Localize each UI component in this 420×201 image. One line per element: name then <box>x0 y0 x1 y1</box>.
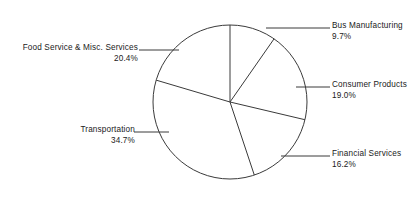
slice-label-percent: 9.7% <box>332 32 403 43</box>
slice-label-transportation: Transportation 34.7% <box>80 125 135 146</box>
slice-label-percent: 19.0% <box>332 91 407 102</box>
slice-label-name: Bus Manufacturing <box>332 21 403 32</box>
slice-label-bus-manufacturing: Bus Manufacturing 9.7% <box>332 21 403 42</box>
slice-label-food-service: Food Service & Misc. Services 20.4% <box>23 43 138 64</box>
slice-label-name: Financial Services <box>332 149 401 160</box>
slice-label-financial-services: Financial Services 16.2% <box>332 149 401 170</box>
slice-label-consumer-products: Consumer Products 19.0% <box>332 80 407 101</box>
slice-label-percent: 20.4% <box>23 54 138 65</box>
slice-label-name: Food Service & Misc. Services <box>23 43 138 54</box>
slice-label-name: Consumer Products <box>332 80 407 91</box>
slice-label-percent: 16.2% <box>332 160 401 171</box>
slice-label-name: Transportation <box>80 125 135 136</box>
pie-chart-figure: Bus Manufacturing 9.7% Consumer Products… <box>0 0 420 201</box>
slice-label-percent: 34.7% <box>80 136 135 147</box>
